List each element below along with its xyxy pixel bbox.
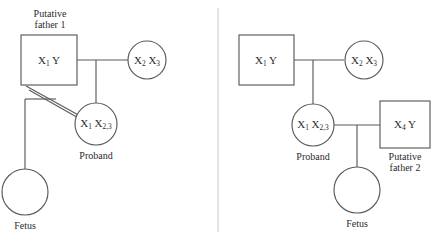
fetus-circle-left [2,169,48,215]
left-panel-group: Putative father 1 X1 Y X2 X3 [2,8,166,231]
putative-father-1-caption-line1: Putative [34,8,67,19]
fetus-label-left: Fetus [14,220,36,231]
fetus-label-right: Fetus [346,218,368,229]
proband-label-right: Proband [296,151,329,162]
putative-father-2-caption-line1: Putative [389,151,422,162]
right-panel-group: X1 Y X2 X3 X1 X2,3 Proband X4 Y Putative [239,35,430,229]
pedigree-figure: Putative father 1 X1 Y X2 X3 [0,0,441,252]
putative-father-1-caption-line2: father 1 [35,19,66,30]
putative-father-2-caption-line2: father 2 [390,162,421,173]
double-mating-line-a [26,86,82,117]
double-mating-line-b [29,90,82,120]
pedigree-canvas: Putative father 1 X1 Y X2 X3 [0,0,441,252]
fetus-circle-right [334,167,380,213]
proband-label-left: Proband [79,150,112,161]
